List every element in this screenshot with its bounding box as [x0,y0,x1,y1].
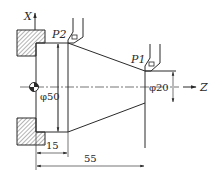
origin-symbol [30,83,39,92]
lathe-drawing: X Z P2 P1 [0,0,215,181]
phi50-label: φ50 [40,91,60,102]
z-axis-label: Z [199,81,208,94]
p1-label: P1 [130,53,145,66]
dim-15-label: 15 [46,140,59,151]
dimension-small-diameter: φ20 [149,72,173,102]
dimension-total-length: 55 [37,153,144,166]
taper-bottom [68,103,145,132]
dimension-large-diameter: φ50 [40,44,60,132]
p2-label: P2 [51,28,66,41]
tool-p2: P2 [51,18,83,43]
dim-55-label: 55 [84,153,97,164]
phi20-label: φ20 [149,82,169,93]
z-axis: Z [183,81,208,94]
x-axis-label: X [23,10,33,23]
x-axis: X [23,10,35,30]
